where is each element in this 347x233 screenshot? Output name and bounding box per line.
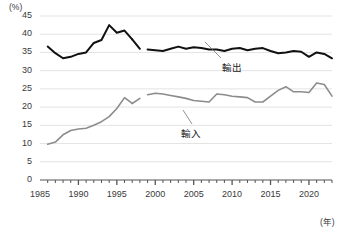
series-export [48,25,332,58]
x-axis-ticks [48,180,332,185]
series-line [132,39,140,48]
chart-container: (%) (年) 051015202530354045 1985199019952… [0,0,347,233]
annotation-leader-lines [183,42,221,124]
series-line [48,98,133,145]
series-line [48,25,133,58]
chart-plot-area [0,0,347,233]
series-annotation-import: 輸入 [181,126,201,140]
leader-line-import [183,110,192,124]
series-annotation-export: 輸出 [222,60,242,74]
series-line [148,83,332,102]
series-line [132,98,140,103]
